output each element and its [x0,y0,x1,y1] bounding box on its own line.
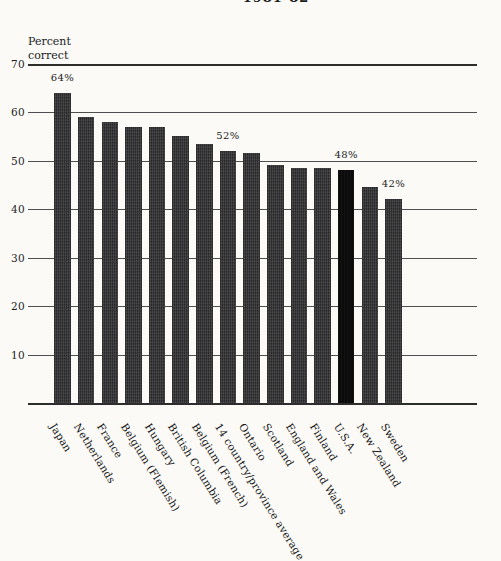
gridline-60 [28,112,477,113]
value-label-u-s-a: 48% [329,149,363,160]
y-tick-label-30: 30 [3,252,25,264]
y-tick-label-60: 60 [3,106,25,118]
bar-belgium-french [196,144,213,404]
bar-british-columbia [172,136,189,403]
value-label-sweden: 42% [376,178,410,189]
bar-netherlands [78,117,95,403]
y-tick-label-70: 70 [3,58,25,70]
y-tick-label-10: 10 [3,349,25,361]
bar-sweden [385,199,402,403]
value-label-japan: 64% [46,72,80,83]
category-label-japan: Japan [48,421,75,454]
bar-ontario [243,153,260,403]
y-tick-label-40: 40 [3,203,25,215]
y-tick-label-20: 20 [3,300,25,312]
value-label-14-country-province-average: 52% [211,130,245,141]
bar-u-s-a [338,170,355,403]
bar-scotland [267,165,284,403]
bar-france [102,122,119,404]
bar-new-zealand [362,187,379,403]
bar-england-and-wales [291,168,308,403]
bar-japan [54,93,71,404]
x-axis-line [28,403,477,405]
y-tick-label-50: 50 [3,155,25,167]
bar-finland [314,168,331,403]
bar-belgium-flemish [125,127,142,404]
gridline-70 [28,64,477,66]
bar-14-country-province-average [220,151,237,403]
bar-hungary [149,127,166,404]
